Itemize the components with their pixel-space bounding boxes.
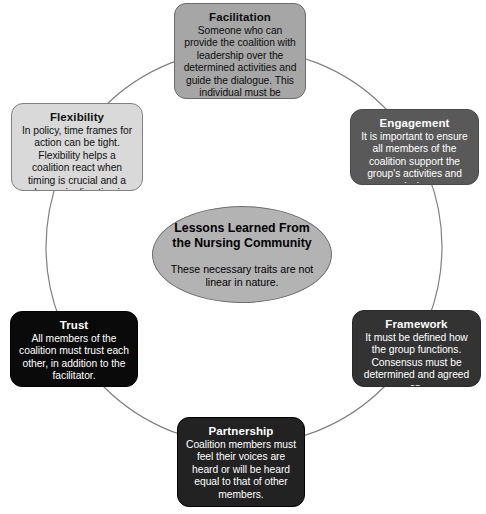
node-flexibility-body: In policy, time frames for action can be… [19,125,135,191]
center-title: Lessons Learned From the Nursing Communi… [167,221,317,251]
node-engagement[interactable]: Engagement It is important to ensure all… [350,109,479,185]
node-framework-title: Framework [360,317,473,331]
node-engagement-title: Engagement [358,116,471,130]
node-engagement-body: It is important to ensure all members of… [358,131,471,185]
node-facilitation-body: Someone who can provide the coalition wi… [182,25,298,99]
node-trust-body: All members of the coalition must trust … [18,333,130,383]
node-partnership-body: Coalition members must feel their voices… [185,439,297,501]
center-subtitle: These necessary traits are not linear in… [167,263,317,289]
node-partnership[interactable]: Partnership Coalition members must feel … [177,417,305,507]
node-flexibility[interactable]: Flexibility In policy, time frames for a… [11,103,143,191]
node-trust-title: Trust [18,318,130,332]
node-facilitation[interactable]: Facilitation Someone who can provide the… [174,3,306,99]
node-framework[interactable]: Framework It must be defined how the gro… [352,310,481,387]
node-framework-body: It must be defined how the group functio… [360,332,473,387]
diagram-canvas: Lessons Learned From the Nursing Communi… [0,0,486,514]
center-ellipse: Lessons Learned From the Nursing Communi… [152,206,332,303]
node-trust[interactable]: Trust All members of the coalition must … [10,311,138,387]
node-facilitation-title: Facilitation [182,10,298,24]
node-partnership-title: Partnership [185,424,297,438]
node-flexibility-title: Flexibility [19,110,135,124]
